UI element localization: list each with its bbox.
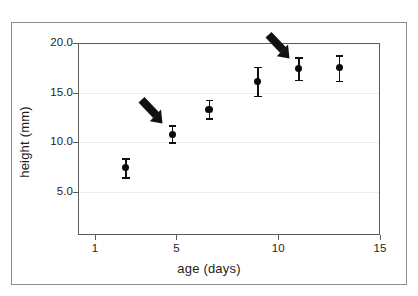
x-axis-tick-label: 5 [173, 243, 179, 255]
data-series-height [78, 43, 380, 235]
data-point-marker [169, 131, 176, 138]
arrow-1-icon [135, 95, 169, 129]
error-bar-cap-lower [122, 177, 130, 179]
y-axis-title: height (mm) [17, 106, 32, 178]
x-axis-tick-label: 10 [272, 243, 285, 255]
error-bar-cap-upper [336, 55, 344, 57]
x-axis-title: age (days) [0, 261, 418, 276]
data-point-marker [295, 65, 302, 72]
x-axis-tick-mark [380, 235, 381, 240]
data-point-marker [254, 78, 261, 85]
error-bar-cap-lower [169, 142, 177, 144]
data-point-marker [205, 106, 212, 113]
x-axis-tick-mark [176, 235, 177, 240]
error-bar-cap-upper [122, 158, 130, 160]
error-bar-cap-lower [295, 80, 303, 82]
error-bar-cap-upper [206, 100, 214, 102]
x-axis-tick-label: 1 [92, 243, 98, 255]
y-axis-title-wrapper: height (mm) [14, 78, 34, 206]
data-point-marker [336, 64, 343, 71]
x-axis-tick-mark [95, 235, 96, 240]
error-bar-cap-upper [295, 57, 303, 59]
error-bar-cap-lower [254, 96, 262, 98]
error-bar-cap-upper [254, 67, 262, 69]
x-axis-tick-mark [278, 235, 279, 240]
arrow-2-icon [262, 30, 296, 64]
data-point-marker [122, 164, 129, 171]
x-axis-tick-label: 15 [374, 243, 387, 255]
error-bar-cap-lower [206, 118, 214, 120]
figure: 5.010.015.020.0 151015 age (days) height… [0, 0, 418, 296]
error-bar-cap-lower [336, 81, 344, 83]
error-bar-cap-upper [169, 125, 177, 127]
